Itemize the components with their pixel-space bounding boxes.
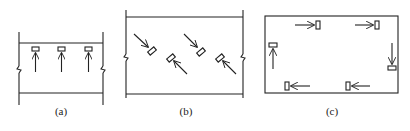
panel-b-label: (b) bbox=[180, 105, 193, 117]
luminaire-icon bbox=[216, 54, 236, 74]
luminaire-icon bbox=[32, 47, 39, 72]
break-mark-right bbox=[241, 54, 245, 61]
luminaire-icon bbox=[388, 43, 396, 70]
luminaire-icon bbox=[285, 82, 310, 90]
panel-c-label: (c) bbox=[326, 105, 338, 117]
room-outline bbox=[265, 16, 398, 93]
luminaire-icon bbox=[85, 47, 92, 72]
panel-a-label: (a) bbox=[55, 105, 67, 117]
panel-c bbox=[265, 16, 398, 93]
luminaire-icon bbox=[346, 82, 370, 90]
panel-a bbox=[17, 32, 105, 105]
break-mark-right bbox=[101, 66, 105, 73]
luminaire-icon bbox=[295, 21, 320, 29]
luminaire-icon bbox=[269, 43, 277, 69]
luminaire-icon bbox=[167, 54, 187, 74]
luminaire-icon bbox=[58, 47, 65, 72]
luminaire-icon bbox=[184, 34, 205, 56]
luminaire-icon bbox=[355, 21, 379, 29]
break-mark-left bbox=[17, 66, 21, 73]
luminaire-icon bbox=[134, 34, 156, 55]
panel-b bbox=[124, 10, 245, 98]
break-mark-left bbox=[124, 54, 128, 61]
